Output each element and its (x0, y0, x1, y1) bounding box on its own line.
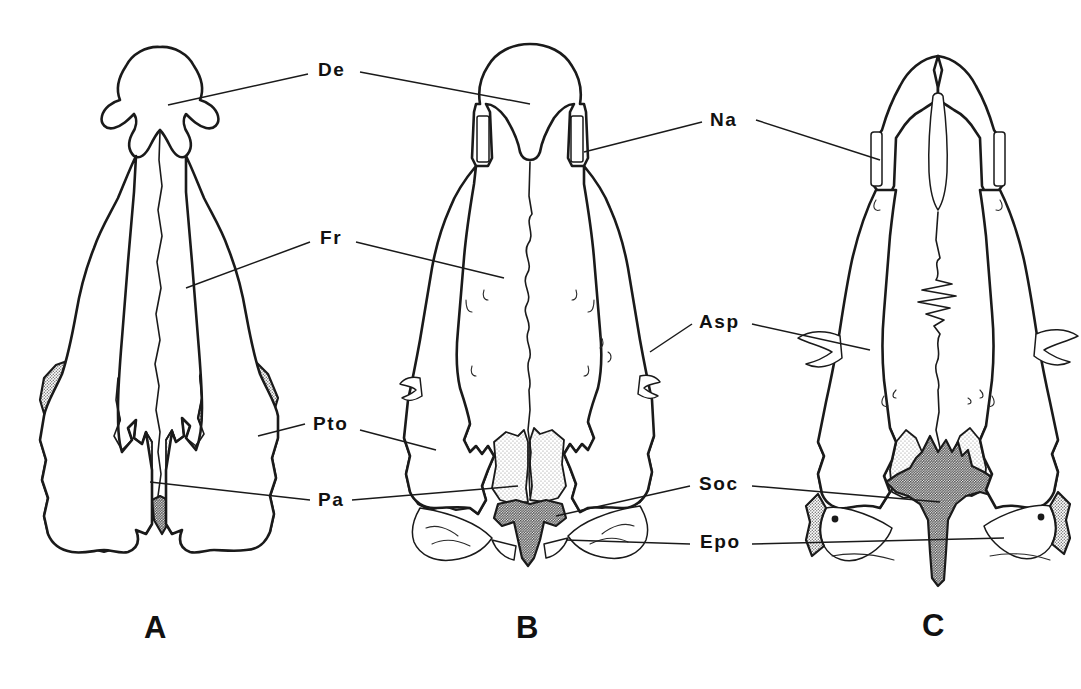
skull-b-pa-left (492, 430, 528, 504)
skull-b-nasal-right (571, 116, 583, 162)
skull-c-sagittal-suture (918, 212, 956, 448)
label-soc: Soc (699, 474, 739, 493)
skull-c-dot-right (1038, 514, 1045, 521)
skull-b-bulla-right (568, 506, 648, 558)
skull-b (400, 44, 660, 566)
leader-asp-left (650, 324, 692, 352)
skull-a-body (40, 156, 152, 553)
label-pa: Pa (318, 490, 344, 509)
skull-c-asp-left (798, 332, 842, 367)
label-de: De (318, 60, 346, 79)
label-asp: Asp (699, 312, 740, 331)
skull-b-frontal-marks-left (466, 290, 488, 376)
skull-b-bulla-left (412, 508, 492, 560)
skull-c-nasal-right (994, 132, 1005, 186)
label-na: Na (710, 110, 738, 129)
skull-c (798, 56, 1078, 586)
leader-na-right (756, 120, 880, 160)
leader-na-left (584, 122, 702, 152)
skull-b-nasal-left (477, 116, 489, 162)
skull-a-sagittal-suture (155, 132, 162, 496)
skull-c-epo-left (820, 507, 892, 561)
skull-b-body-right (564, 166, 654, 512)
skull-b-condyle-right (544, 538, 568, 558)
panel-letter-a: A (144, 612, 166, 643)
skull-a (40, 47, 278, 553)
skull-c-asp-right (1034, 330, 1078, 365)
skull-b-pa-right (530, 428, 566, 502)
skull-illustration (0, 0, 1081, 689)
label-pto: Pto (313, 414, 348, 433)
figure-plate: De Fr Pto Pa Na Asp Soc Epo A B C (0, 0, 1081, 689)
skull-b-condyle-left (492, 540, 516, 560)
label-fr: Fr (320, 228, 342, 247)
skull-c-epo-right (984, 505, 1056, 559)
skull-c-nasal-septum (929, 93, 948, 210)
skull-a-body-right (166, 156, 278, 553)
label-epo: Epo (700, 532, 741, 551)
skull-b-body-left (404, 166, 494, 514)
skull-c-dot-left (832, 516, 839, 523)
panel-letter-b: B (516, 612, 538, 643)
panel-letter-c: C (922, 610, 944, 641)
